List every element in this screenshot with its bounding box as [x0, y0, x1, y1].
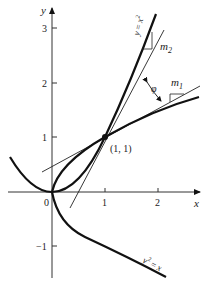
y-tick-2: 2 — [42, 78, 47, 89]
x-tick-1: 1 — [102, 197, 107, 208]
y-tick-3: 3 — [42, 23, 47, 34]
svg-text:y=x2: y=x2 — [130, 14, 146, 37]
slope-label-m1: m1 — [171, 76, 183, 91]
x-tick-2: 2 — [155, 197, 160, 208]
y-tick-neg1: −1 — [36, 241, 47, 252]
angle-phi-label: φ — [151, 83, 157, 94]
figure: y x 0 1 2 3 2 1 −1 (1, 1) φ m2 m1 y=x2 y… — [0, 0, 206, 285]
tangent-line-m2 — [70, 30, 164, 208]
curve-label-y-equals-x-squared: y=x2 — [130, 14, 146, 37]
intersection-label: (1, 1) — [110, 143, 132, 155]
x-axis-label: x — [193, 197, 199, 209]
x-tick-0: 0 — [44, 197, 49, 208]
y-axis-label: y — [40, 4, 46, 16]
slope-label-m2: m2 — [160, 40, 172, 55]
curve-y-squared-equals-x — [52, 97, 199, 277]
diagram-canvas: y x 0 1 2 3 2 1 −1 (1, 1) φ m2 m1 y=x2 y… — [0, 0, 206, 285]
curve-y-equals-x-squared — [10, 14, 156, 192]
y-tick-1: 1 — [42, 132, 47, 143]
intersection-point — [102, 134, 108, 140]
